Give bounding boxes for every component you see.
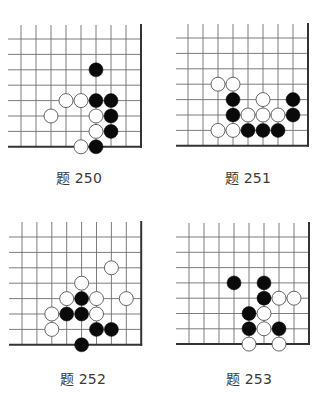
white-stone	[257, 307, 271, 321]
white-stone	[287, 291, 301, 305]
black-stone	[257, 276, 271, 290]
black-stone	[242, 322, 256, 336]
black-stone	[257, 291, 271, 305]
problem-caption: 题 253	[226, 368, 272, 388]
white-stone	[272, 291, 286, 305]
black-stone	[272, 322, 286, 336]
black-stone	[242, 307, 256, 321]
white-stone	[242, 337, 256, 351]
white-stone	[257, 322, 271, 336]
go-board-diagram	[0, 0, 329, 395]
black-stone	[227, 276, 241, 290]
white-stone	[272, 337, 286, 351]
